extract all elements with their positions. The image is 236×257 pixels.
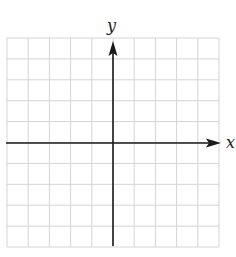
x-axis-label: x <box>226 133 235 152</box>
y-axis-label: y <box>106 16 117 35</box>
coordinate-plane: x y <box>0 0 236 257</box>
